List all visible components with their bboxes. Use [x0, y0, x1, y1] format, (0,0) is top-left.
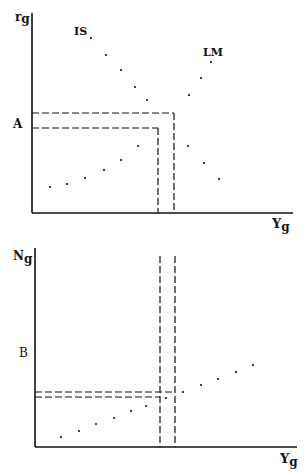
curve-dot	[200, 384, 202, 386]
curve-dot	[103, 169, 105, 171]
curve-dot	[145, 405, 147, 407]
is-lm-diagram: rg IS LM A Yg Ng B Yg	[0, 0, 308, 472]
curve-dot	[210, 61, 212, 63]
curve-dot	[95, 423, 97, 425]
curve-dot	[182, 391, 184, 393]
curve-dot	[146, 99, 148, 101]
curve-dot	[78, 430, 80, 432]
marker-b-label: B	[19, 346, 28, 360]
bottom-panel-employment: Ng B Yg	[13, 248, 298, 469]
curve-dot	[235, 371, 237, 373]
curve-dot	[187, 145, 189, 147]
curve-dot	[134, 86, 136, 88]
is-curve-label: IS	[74, 25, 87, 38]
top-y-axis-label: rg	[15, 10, 30, 26]
curve-dot	[66, 183, 68, 185]
curve-dot	[113, 417, 115, 419]
curve-dot	[130, 410, 132, 412]
curve-dot	[252, 364, 254, 366]
curve-dot	[120, 159, 122, 161]
curve-dot	[165, 397, 167, 399]
top-panel-is-lm: rg IS LM A Yg	[12, 10, 293, 234]
curve-dot	[90, 37, 92, 39]
curve-dot	[49, 186, 51, 188]
curve-dot	[120, 69, 122, 71]
lm-curve-label: LM	[203, 46, 223, 59]
curve-dot	[188, 94, 190, 96]
curve-dot	[137, 145, 139, 147]
bottom-curve-dots	[60, 364, 254, 438]
bottom-x-axis-label: Yg	[279, 451, 298, 469]
bottom-y-axis-label: Ng	[13, 249, 33, 266]
marker-a-label: A	[12, 117, 23, 131]
curve-dot	[203, 162, 205, 164]
curve-dot	[60, 436, 62, 438]
curve-dot	[105, 54, 107, 56]
curve-dot	[84, 177, 86, 179]
curve-dot	[200, 77, 202, 79]
bottom-dashed-guides	[35, 256, 175, 447]
top-dashed-guides	[32, 113, 174, 213]
curve-dot	[217, 378, 219, 380]
curve-dot	[218, 178, 220, 180]
top-x-axis-label: Yg	[271, 216, 290, 234]
